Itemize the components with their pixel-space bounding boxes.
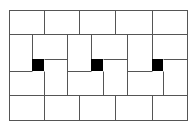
black-square (91, 59, 103, 71)
black-squares (32, 59, 163, 71)
black-square (32, 59, 44, 71)
tiling-diagram (0, 0, 192, 125)
tiling-canvas (0, 0, 192, 125)
black-square (152, 59, 163, 71)
